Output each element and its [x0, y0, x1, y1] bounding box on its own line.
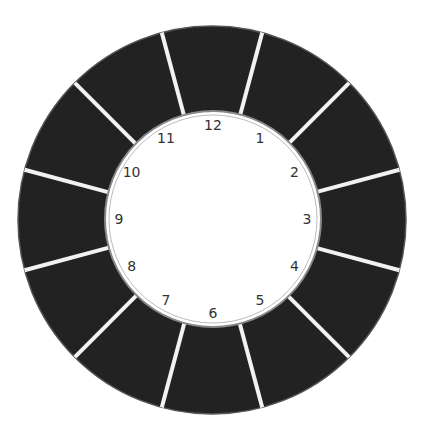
- clock-number-12: 12: [204, 117, 222, 133]
- clock-number-9: 9: [115, 211, 124, 227]
- clock-number-5: 5: [256, 292, 265, 308]
- clock-number-7: 7: [162, 292, 171, 308]
- clock-number-1: 1: [256, 130, 265, 146]
- clock-number-3: 3: [303, 211, 312, 227]
- clock-number-2: 2: [290, 164, 299, 180]
- clock-number-10: 10: [123, 164, 141, 180]
- clock-number-4: 4: [290, 258, 299, 274]
- clock-wheel-diagram: 121234567891011: [0, 0, 429, 432]
- clock-face: [105, 111, 321, 327]
- clock-number-6: 6: [209, 305, 218, 321]
- clock-number-8: 8: [127, 258, 136, 274]
- clock-number-11: 11: [157, 130, 175, 146]
